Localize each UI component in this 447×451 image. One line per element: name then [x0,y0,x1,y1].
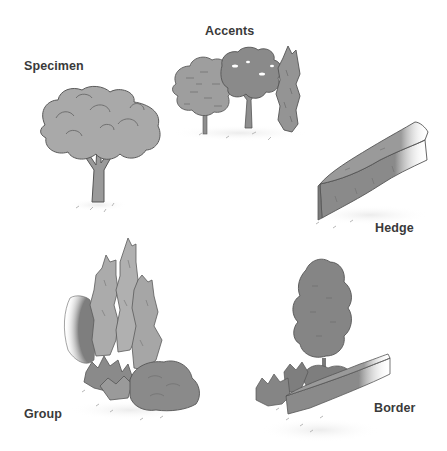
group-plants-icon [64,238,199,420]
border-planting-icon [256,259,390,442]
label-accents: Accents [205,24,254,38]
label-hedge: Hedge [375,221,414,235]
accents-trees-icon [170,46,310,141]
label-group: Group [24,407,62,421]
hedge-icon [310,122,430,228]
specimen-tree-icon [41,86,160,212]
label-specimen: Specimen [24,59,84,73]
plant-arrangement-diagram: Specimen Accents Hedge Group Border [0,0,447,451]
label-border: Border [374,401,416,415]
